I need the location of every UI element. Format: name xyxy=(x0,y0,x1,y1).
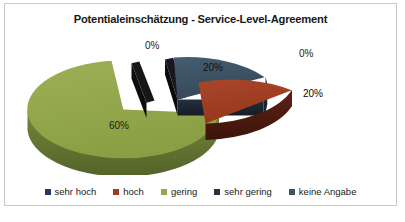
legend-item-sehr-gering[interactable]: sehr gering xyxy=(214,186,272,197)
legend-item-sehr-hoch[interactable]: sehr hoch xyxy=(45,186,97,197)
chart-legend: sehr hoch hoch gering sehr gering keine … xyxy=(5,186,396,197)
data-label-keine-angabe: 20% xyxy=(203,62,223,73)
pie-svg xyxy=(5,30,398,175)
legend-label-sehr-gering: sehr gering xyxy=(224,186,272,197)
legend-label-keine-angabe: keine Angabe xyxy=(299,186,357,197)
legend-swatch-icon-sehr-hoch xyxy=(45,189,51,195)
legend-item-gering[interactable]: gering xyxy=(161,186,197,197)
chart-frame: Potentialeinschätzung - Service-Level-Ag… xyxy=(4,3,397,206)
legend-label-hoch: hoch xyxy=(123,186,144,197)
legend-label-gering: gering xyxy=(171,186,197,197)
legend-item-hoch[interactable]: hoch xyxy=(113,186,144,197)
legend-swatch-icon-keine-angabe xyxy=(289,189,295,195)
legend-swatch-icon-hoch xyxy=(113,189,119,195)
data-label-sehr-gering: 0% xyxy=(299,48,313,59)
legend-label-sehr-hoch: sehr hoch xyxy=(55,186,97,197)
legend-swatch-icon-sehr-gering xyxy=(214,189,220,195)
data-label-hoch: 20% xyxy=(303,88,323,99)
caption-fragment xyxy=(16,210,386,220)
legend-swatch-icon-gering xyxy=(161,189,167,195)
legend-item-keine-angabe[interactable]: keine Angabe xyxy=(289,186,357,197)
data-label-gering: 60% xyxy=(109,120,129,131)
data-label-sehr-hoch: 0% xyxy=(145,40,159,51)
chart-title: Potentialeinschätzung - Service-Level-Ag… xyxy=(5,13,396,25)
pie-chart-graphic xyxy=(5,30,398,175)
